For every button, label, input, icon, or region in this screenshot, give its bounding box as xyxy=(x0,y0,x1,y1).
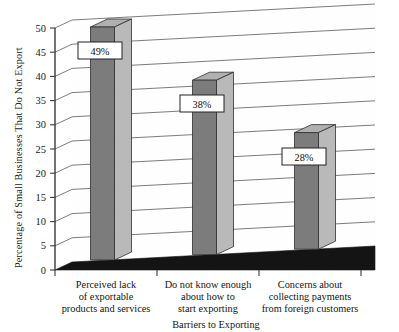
y-tick-label-0: 0 xyxy=(41,265,46,276)
y-tick-label-25: 25 xyxy=(36,144,47,155)
category-2-line2: about how to xyxy=(181,291,235,302)
bar-1-front xyxy=(91,27,115,260)
data-label-1: 49% xyxy=(78,42,122,59)
y-tick-label-10: 10 xyxy=(36,216,47,227)
y-tick-label-5: 5 xyxy=(41,240,46,251)
category-1-line1: Perceived lack xyxy=(76,279,137,290)
bar-chart-figure: 50 45 40 35 30 25 20 15 10 5 0 Percentag… xyxy=(0,0,399,332)
x-axis-title-text: Barriers to Exporting xyxy=(172,319,260,330)
data-label-2-text: 38% xyxy=(193,99,212,110)
category-3-line1: Concerns about xyxy=(278,279,342,290)
y-tick-label-20: 20 xyxy=(36,168,47,179)
data-label-3-text: 28% xyxy=(295,152,314,163)
y-tick-label-15: 15 xyxy=(36,192,47,203)
y-axis-title-text: Percentage of Small Businesses That Do N… xyxy=(13,47,24,268)
y-tick-label-30: 30 xyxy=(36,119,47,130)
category-3-line3: from foreign customers xyxy=(262,303,359,314)
category-1-line2: of exportable xyxy=(79,291,134,302)
x-axis-title: Barriers to Exporting xyxy=(172,319,260,330)
category-2-line3: start exporting xyxy=(178,303,238,314)
y-tick-label-40: 40 xyxy=(36,71,47,82)
data-label-1-text: 49% xyxy=(91,46,110,57)
y-axis-title: Percentage of Small Businesses That Do N… xyxy=(13,47,24,268)
category-1-line3: products and services xyxy=(62,303,151,314)
bar-group-3[interactable] xyxy=(295,125,336,250)
category-3-line2: collecting payments xyxy=(269,291,352,302)
data-label-3: 28% xyxy=(282,148,326,165)
y-tick-label-50: 50 xyxy=(36,23,47,34)
y-tick-label-45: 45 xyxy=(36,47,47,58)
bar-3-side xyxy=(319,125,336,250)
data-label-2: 38% xyxy=(180,95,224,112)
category-2-line1: Do not know enough xyxy=(165,279,253,290)
y-tick-label-35: 35 xyxy=(36,95,47,106)
